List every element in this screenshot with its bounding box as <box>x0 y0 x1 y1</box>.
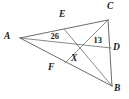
measure-label-13: 13 <box>93 36 103 45</box>
point-label-X: X <box>71 54 77 64</box>
point-label-D: D <box>113 43 120 53</box>
side-CB <box>108 20 112 86</box>
geometry-diagram: A B C D E F X 26 13 <box>0 0 129 99</box>
point-label-E: E <box>59 10 65 20</box>
point-label-C: C <box>107 2 113 12</box>
measure-label-26: 26 <box>50 32 60 41</box>
point-label-A: A <box>4 32 10 42</box>
point-label-F: F <box>48 63 54 73</box>
point-label-B: B <box>114 84 120 94</box>
